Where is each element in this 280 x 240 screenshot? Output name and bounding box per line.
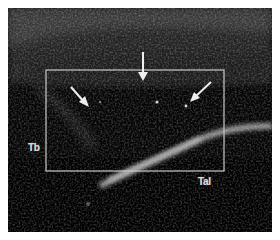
tibia-label: Tb [28, 142, 40, 153]
talus-label: Tal [198, 176, 211, 187]
ultrasound-image: Tb Tal [8, 8, 272, 232]
ultrasound-scan-graphic [8, 8, 272, 232]
